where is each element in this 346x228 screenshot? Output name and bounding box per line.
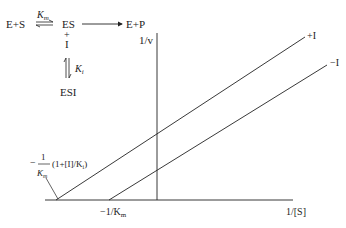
line-with-inhibitor-label: +I <box>307 30 316 41</box>
svg-text:(1+[I]/Ki): (1+[I]/Ki) <box>52 159 87 170</box>
products-label: E+P <box>126 18 145 30</box>
svg-text:−: − <box>30 157 36 168</box>
km-label: Km <box>36 9 49 22</box>
lineweaver-burk-diagram: E+S Km ES E+P + I Ki ESI 1/v 1/[S] +I −I… <box>0 0 346 228</box>
x-intercept-pointer <box>46 178 58 199</box>
line-without-inhibitor <box>109 65 327 200</box>
svg-text:1: 1 <box>41 152 46 162</box>
inhibitor-equilibrium-arrows-icon <box>64 58 71 78</box>
esi-label: ESI <box>60 86 77 98</box>
x-intercept-without-label: −1/Km <box>100 206 127 219</box>
line-with-inhibitor <box>56 37 305 200</box>
line-without-inhibitor-label: −I <box>330 57 339 68</box>
svg-text:Km: Km <box>36 168 48 179</box>
x-intercept-with-label: − 1 Km (1+[I]/Ki) <box>30 152 87 179</box>
y-axis-label: 1/v <box>139 34 154 46</box>
inhibitor-label: I <box>65 38 69 50</box>
reactants-label: E+S <box>6 18 25 30</box>
x-axis-label: 1/[S] <box>286 206 306 217</box>
ki-label: Ki <box>74 63 84 76</box>
